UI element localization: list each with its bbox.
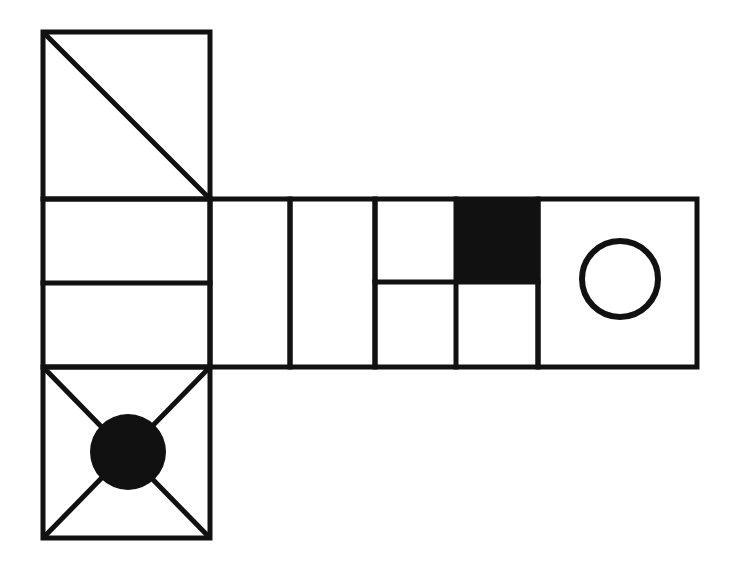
filled-black-circle bbox=[90, 414, 166, 490]
filled-black-square bbox=[456, 200, 538, 282]
geometric-figure bbox=[0, 0, 730, 575]
background bbox=[0, 0, 730, 575]
figure-canvas bbox=[0, 0, 730, 575]
